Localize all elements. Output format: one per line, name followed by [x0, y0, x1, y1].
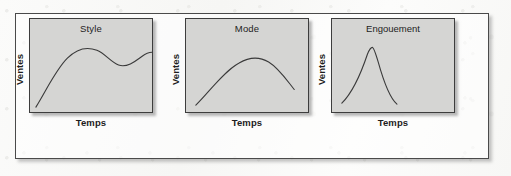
chart-plot-area-style: Style	[29, 18, 153, 113]
chart-panels-container: Ventes Style Temps Ventes Mode Temps Ven…	[0, 0, 511, 176]
y-axis-label-mode: Ventes	[169, 31, 183, 107]
x-axis-label-mode: Temps	[185, 117, 309, 128]
curve-mode	[186, 19, 308, 112]
y-axis-label-text: Ventes	[317, 53, 328, 84]
chart-panel-mode: Ventes Mode Temps	[170, 18, 317, 131]
y-axis-label-style: Ventes	[13, 31, 27, 107]
chart-plot-area-engouement: Engouement	[331, 18, 455, 113]
y-axis-label-engouement: Ventes	[315, 31, 329, 107]
chart-panel-engouement: Ventes Engouement Temps	[316, 18, 463, 131]
curve-style	[30, 19, 152, 112]
y-axis-label-text: Ventes	[171, 53, 182, 84]
curve-engouement	[332, 19, 454, 112]
x-axis-label-style: Temps	[29, 117, 153, 128]
chart-panel-style: Ventes Style Temps	[14, 18, 161, 131]
chart-plot-area-mode: Mode	[185, 18, 309, 113]
y-axis-label-text: Ventes	[15, 53, 26, 84]
x-axis-label-engouement: Temps	[331, 117, 455, 128]
